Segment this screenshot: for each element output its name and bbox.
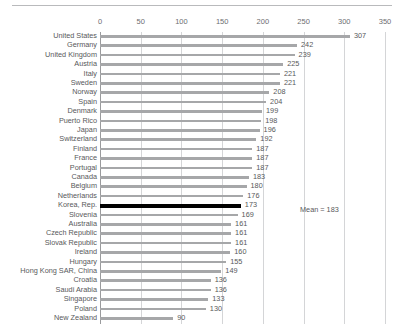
category-label: Norway [0, 87, 97, 96]
bar-value-label: 187 [256, 163, 268, 172]
category-label: United Kingdom [0, 50, 97, 59]
bar-value-label: 198 [265, 116, 277, 125]
bar[interactable] [100, 157, 252, 160]
bar-value-label: 169 [242, 210, 254, 219]
bar[interactable] [100, 232, 231, 235]
bar[interactable] [100, 242, 231, 245]
category-label: Croatia [0, 275, 97, 284]
bar-value-label: 133 [212, 294, 224, 303]
bar[interactable] [100, 185, 247, 188]
bar-value-label: 187 [256, 153, 268, 162]
bar[interactable] [100, 251, 230, 254]
category-label: New Zealand [0, 313, 97, 322]
bar-value-label: 221 [284, 69, 296, 78]
bar[interactable] [100, 214, 238, 217]
bar-value-label: 90 [177, 313, 185, 322]
bar[interactable] [100, 101, 266, 104]
bar-value-label: 225 [287, 59, 299, 68]
bar-value-label: 187 [256, 144, 268, 153]
bar-value-label: 183 [253, 172, 265, 181]
bar[interactable] [100, 195, 243, 198]
category-label: Austria [0, 59, 97, 68]
category-label: Australia [0, 219, 97, 228]
category-label: Slovenia [0, 210, 97, 219]
bar-value-label: 149 [225, 266, 237, 275]
category-label: Canada [0, 172, 97, 181]
category-label: France [0, 153, 97, 162]
bar[interactable] [100, 44, 297, 47]
bar[interactable] [100, 82, 280, 85]
bar[interactable] [100, 129, 260, 132]
bar-value-label: 208 [273, 87, 285, 96]
category-label: Germany [0, 40, 97, 49]
bar[interactable] [100, 167, 252, 170]
bar[interactable] [100, 317, 173, 320]
bar[interactable] [100, 270, 221, 273]
bar-value-label: 155 [230, 257, 242, 266]
bar-value-label: 204 [270, 97, 282, 106]
category-label: Puerto Rico [0, 116, 97, 125]
category-label: Spain [0, 97, 97, 106]
bar[interactable] [100, 176, 249, 179]
bar[interactable] [100, 91, 269, 94]
bar-value-label: 221 [284, 78, 296, 87]
bar[interactable] [100, 261, 226, 264]
x-tick-label-100: 100 [175, 17, 188, 27]
category-label: Portugal [0, 163, 97, 172]
bar[interactable] [100, 138, 256, 141]
bar[interactable] [100, 289, 211, 292]
bar-value-label: 307 [354, 31, 366, 40]
bar-value-label: 176 [247, 191, 259, 200]
category-label: Poland [0, 304, 97, 313]
x-tick-label-250: 250 [297, 17, 310, 27]
category-label: Hungary [0, 257, 97, 266]
bar-value-label: 242 [301, 40, 313, 49]
bar-chart: 050100150200250300350 United States307Ge… [0, 0, 407, 332]
bar[interactable] [100, 73, 280, 76]
category-label: Slovak Republic [0, 238, 97, 247]
category-label: Ireland [0, 247, 97, 256]
x-tick-label-200: 200 [257, 17, 270, 27]
bar-value-label: 173 [245, 200, 257, 209]
bar-value-label: 196 [264, 125, 276, 134]
bar-value-label: 199 [266, 106, 278, 115]
bar[interactable] [100, 54, 295, 57]
category-label: Hong Kong SAR, China [0, 266, 97, 275]
category-label: Saudi Arabia [0, 285, 97, 294]
category-label: Finland [0, 144, 97, 153]
bar-value-label: 136 [215, 285, 227, 294]
bar[interactable] [100, 35, 350, 38]
category-label: Czech Republic [0, 228, 97, 237]
bar[interactable] [100, 63, 283, 66]
category-label: Switzerland [0, 134, 97, 143]
x-tick-label-150: 150 [216, 17, 229, 27]
category-label: Japan [0, 125, 97, 134]
x-tick-label-50: 50 [137, 17, 145, 27]
x-tick-label-0: 0 [98, 17, 102, 27]
bar-value-label: 130 [210, 304, 222, 313]
category-label: Italy [0, 69, 97, 78]
x-tick-label-350: 350 [379, 17, 392, 27]
bar-value-label: 161 [235, 238, 247, 247]
bar[interactable] [100, 148, 252, 151]
bar[interactable] [100, 223, 231, 226]
bar-value-label: 239 [299, 50, 311, 59]
bar[interactable] [100, 204, 241, 208]
category-label: Netherlands [0, 191, 97, 200]
category-label: Singapore [0, 294, 97, 303]
bar-row[interactable]: New Zealand90 [0, 314, 407, 323]
top-divider-rule [12, 5, 392, 6]
bar[interactable] [100, 308, 206, 311]
bar[interactable] [100, 279, 211, 282]
bar-value-label: 160 [234, 247, 246, 256]
category-label: United States [0, 31, 97, 40]
bar-value-label: 161 [235, 228, 247, 237]
category-label: Sweden [0, 78, 97, 87]
bar-value-label: 136 [215, 275, 227, 284]
category-label: Denmark [0, 106, 97, 115]
bar[interactable] [100, 110, 262, 113]
x-tick-label-300: 300 [338, 17, 351, 27]
bar[interactable] [100, 120, 261, 123]
bar[interactable] [100, 298, 208, 301]
x-axis-tick-labels: 050100150200250300350 [0, 17, 407, 29]
